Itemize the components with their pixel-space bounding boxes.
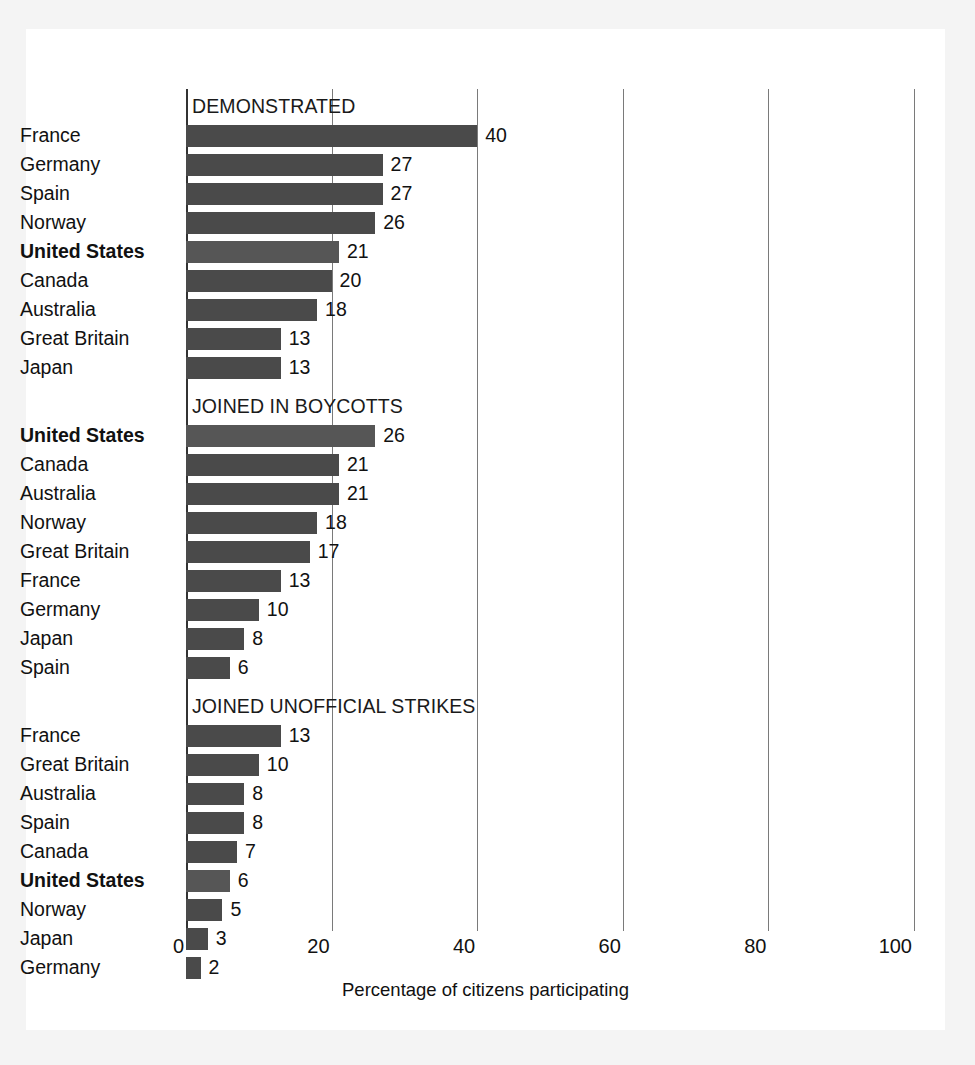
bar [186,570,281,592]
bar-value-label: 18 [325,298,347,321]
bar-value-label: 5 [230,898,241,921]
bar-value-label: 13 [289,724,311,747]
bar-row: Norway26 [26,211,945,240]
category-label: Germany [20,153,180,176]
category-label: Canada [20,453,180,476]
category-label: Norway [20,211,180,234]
bar-row: Great Britain13 [26,327,945,356]
bar-row: Norway18 [26,511,945,540]
bar [186,154,383,176]
bar [186,725,281,747]
bar [186,357,281,379]
category-label: Great Britain [20,540,180,563]
bar-value-label: 7 [245,840,256,863]
bar [186,241,339,263]
x-tick-label-40: 40 [415,935,475,958]
bar [186,212,375,234]
bar-row: Canada7 [26,840,945,869]
x-tick-label-0: 0 [124,935,184,958]
bar-row: Germany10 [26,598,945,627]
bar [186,125,477,147]
bar-value-label: 21 [347,482,369,505]
category-label: Spain [20,182,180,205]
bar-row: United States26 [26,424,945,453]
category-label: Australia [20,782,180,805]
bar [186,183,383,205]
bar-row: United States21 [26,240,945,269]
bar-value-label: 21 [347,453,369,476]
category-label: United States [20,424,180,447]
bar-row: Canada20 [26,269,945,298]
bar-row: Australia18 [26,298,945,327]
bar-value-label: 8 [252,811,263,834]
category-label: Japan [20,356,180,379]
bar-value-label: 8 [252,627,263,650]
bar [186,841,237,863]
bar-value-label: 6 [238,869,249,892]
bar [186,754,259,776]
bar-value-label: 18 [325,511,347,534]
bar-value-label: 17 [318,540,340,563]
bar-value-label: 26 [383,211,405,234]
bar-value-label: 2 [209,956,220,979]
bar-value-label: 13 [289,327,311,350]
bar-value-label: 10 [267,753,289,776]
category-label: Germany [20,956,180,979]
bar [186,783,244,805]
bar-value-label: 10 [267,598,289,621]
category-label: Norway [20,898,180,921]
bar-row: Great Britain17 [26,540,945,569]
bar [186,599,259,621]
bar-row: Norway5 [26,898,945,927]
bar-row: Australia21 [26,482,945,511]
bar-value-label: 27 [391,153,413,176]
bar-row: Spain27 [26,182,945,211]
bar [186,628,244,650]
panel-title: DEMONSTRATED [192,95,355,118]
x-tick-label-20: 20 [270,935,330,958]
bar-value-label: 13 [289,569,311,592]
x-tick-label-80: 80 [706,935,766,958]
bar-row: France40 [26,124,945,153]
category-label: Germany [20,598,180,621]
bar [186,899,222,921]
category-label: Canada [20,840,180,863]
bar-row: Germany27 [26,153,945,182]
bar [186,812,244,834]
panel-title: JOINED UNOFFICIAL STRIKES [192,695,475,718]
category-label: United States [20,240,180,263]
bar [186,870,230,892]
x-tick-label-60: 60 [561,935,621,958]
bar [186,328,281,350]
bar [186,483,339,505]
category-label: Australia [20,482,180,505]
bar [186,957,201,979]
category-label: Japan [20,627,180,650]
bar-row: Canada21 [26,453,945,482]
bar-value-label: 26 [383,424,405,447]
bar-value-label: 13 [289,356,311,379]
x-axis-title: Percentage of citizens participating [26,979,945,1001]
bar-row: France13 [26,569,945,598]
bar [186,657,230,679]
bar-row: Spain8 [26,811,945,840]
bar [186,299,317,321]
category-label: Canada [20,269,180,292]
category-label: Norway [20,511,180,534]
category-label: France [20,724,180,747]
bar-row: United States6 [26,869,945,898]
bar-value-label: 3 [216,927,227,950]
bar [186,512,317,534]
bar-value-label: 40 [485,124,507,147]
bar-row: France13 [26,724,945,753]
category-label: Great Britain [20,753,180,776]
bar [186,928,208,950]
bar-row: Japan8 [26,627,945,656]
bar-row: Spain6 [26,656,945,685]
panel-title: JOINED IN BOYCOTTS [192,395,403,418]
category-label: Great Britain [20,327,180,350]
chart-card: DEMONSTRATEDFrance40Germany27Spain27Norw… [26,29,945,1030]
bar-row: Japan13 [26,356,945,385]
bar [186,541,310,563]
category-label: France [20,569,180,592]
